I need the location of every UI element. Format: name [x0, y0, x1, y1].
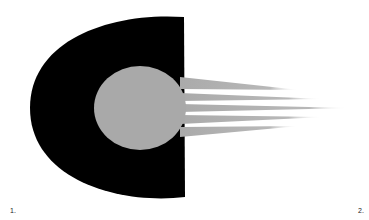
light-rays	[180, 77, 352, 137]
figure-label-1: 1.	[10, 207, 16, 214]
logo-figure	[0, 0, 369, 220]
grey-disc	[94, 66, 186, 150]
figure-label-2: 2.	[358, 207, 364, 214]
